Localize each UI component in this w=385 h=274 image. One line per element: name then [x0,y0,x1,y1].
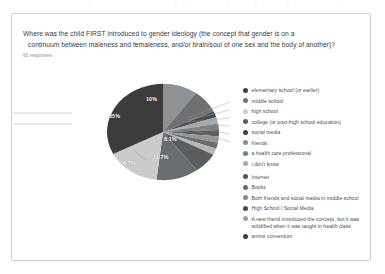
legend-item-middle-school[interactable]: middle school [243,98,375,105]
question-text-line-2: continuum between maleness and femalenes… [23,39,363,50]
legend-swatch-icon [243,151,248,156]
legend-item-label: middle school [252,98,284,105]
legend-swatch-icon [243,98,248,103]
legend-swatch-icon [243,119,248,124]
scan-artifact: o [340,1,343,7]
scan-artifact: o [188,1,191,7]
legend-swatch-icon [243,109,248,114]
legend-swatch-icon [243,140,248,145]
legend: elementary school (or earlier) middle sc… [243,87,375,244]
pie-label-35: 35% [109,113,120,119]
pie-chart: 10% 35% 8.1% 11.7% 16.7% [100,80,226,184]
legend-swatch-icon [243,185,248,190]
legend-item-label: A new friend introduced the concept, but… [252,216,376,230]
legend-item-label: anime convention [252,233,293,240]
legend-item-label: Internet [252,174,270,181]
response-count: 60 responses [23,52,363,59]
legend-swatch-icon [243,206,248,211]
legend-swatch-icon [243,161,248,166]
legend-swatch-icon [243,234,248,239]
legend-item-internet[interactable]: Internet [243,174,375,181]
pie-label-8-1: 8.1% [164,136,177,142]
legend-item-both-friends-and-social-media[interactable]: Both friends and social media in middle … [243,195,375,202]
legend-swatch-icon [243,130,248,135]
question-block: Where was the child FIRST introduced to … [23,28,363,59]
legend-item-label: High School / Social Media [252,205,314,212]
scan-artifact: e [286,1,289,7]
legend-item-label: Both friends and social media in middle … [252,195,359,202]
pie-label-16-7: 16.7% [120,160,136,166]
survey-result-card: Where was the child FIRST introduced to … [11,13,371,261]
legend-item-friends[interactable]: friends [243,140,375,147]
legend-item-label: i don't know [252,161,279,168]
legend-item-label: social media [252,129,281,136]
pie-chart-svg [100,80,226,184]
legend-item-books[interactable]: Books [243,184,375,191]
scan-artifact: o [254,1,257,7]
legend-swatch-icon [243,88,248,93]
legend-item-label: high school [252,108,278,115]
legend-item-label: Books [252,184,266,191]
legend-swatch-icon [243,195,248,200]
legend-item-label: a health care professional [252,150,312,157]
legend-item-health-care-professional[interactable]: a health care professional [243,150,375,157]
legend-item-high-school[interactable]: high school [243,108,375,115]
scan-artifact: v [226,1,229,7]
legend-swatch-icon [243,174,248,179]
legend-item-college[interactable]: college (or post-high school education) [243,119,375,126]
legend-item-elementary-school[interactable]: elementary school (or earlier) [243,87,375,94]
legend-item-i-dont-know[interactable]: i don't know [243,161,375,168]
legend-item-label: elementary school (or earlier) [252,87,320,94]
legend-item-new-friend-introduced-concept[interactable]: A new friend introduced the concept, but… [243,216,375,230]
scan-artifact: o [174,1,177,7]
pie-label-11-7: 11.7% [153,154,169,160]
legend-item-label: college (or post-high school education) [252,119,341,126]
legend-swatch-icon [243,216,248,221]
question-text-line-1: Where was the child FIRST introduced to … [23,28,363,39]
scan-artifact-row: | o o v o e o [0,0,385,8]
legend-item-high-school-social-media[interactable]: High School / Social Media [243,205,375,212]
pie-label-10: 10% [146,96,157,102]
legend-item-anime-convention[interactable]: anime convention [243,233,375,240]
legend-item-social-media[interactable]: social media [243,129,375,136]
legend-item-label: friends [252,140,268,147]
scan-artifact: | [88,1,89,7]
